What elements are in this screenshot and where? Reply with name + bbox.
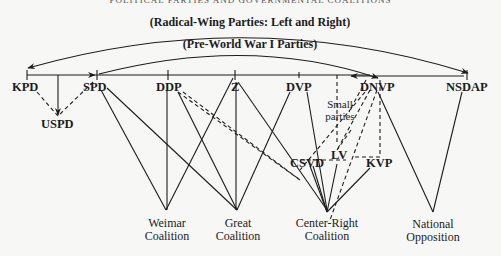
party-dnvp: DNVP (360, 81, 395, 94)
great-coalition-label: Great Coalition (207, 217, 269, 243)
party-ddp: DDP (156, 81, 182, 94)
national-opposition-label: National Opposition (398, 218, 468, 244)
party-uspd: USPD (41, 118, 74, 131)
radical-wing-label: (Radical-Wing Parties: Left and Right) (130, 15, 370, 30)
center-right-coalition-label: Center-Right Coalition (287, 217, 367, 243)
party-csvd: CSVD (290, 157, 324, 170)
party-kpd: KPD (12, 81, 38, 94)
party-spd: SPD (83, 81, 107, 94)
party-dvp: DVP (286, 81, 312, 94)
party-z: Z (231, 81, 239, 94)
party-kvp: KVP (366, 157, 392, 170)
small-parties-label: Small parties (320, 98, 360, 122)
weimar-coalition-label: Weimar Coalition (136, 217, 198, 243)
party-lv: LV (331, 149, 347, 162)
party-nsdap: NSDAP (446, 81, 488, 94)
prewar-parties-label: (Pre-World War I Parties) (160, 37, 340, 52)
